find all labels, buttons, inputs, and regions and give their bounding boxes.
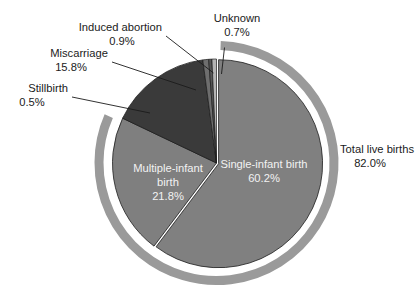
label-miscarriage-name: Miscarriage	[50, 47, 108, 59]
label-multiple-infant-birth-name-line1: Multiple-infant	[133, 162, 204, 174]
label-single-infant-birth-name: Single-infant birth	[220, 158, 307, 170]
label-single-infant-birth-value: 60.2%	[248, 172, 280, 184]
label-multiple-infant-birth-value: 21.8%	[152, 190, 184, 202]
label-unknown-value: 0.7%	[224, 26, 250, 38]
label-multiple-infant-birth-name-line2: birth	[157, 176, 179, 188]
label-stillbirth-name: Stillbirth	[28, 82, 68, 94]
label-induced-abortion-name: Induced abortion	[79, 21, 162, 33]
label-unknown-name: Unknown	[214, 12, 261, 24]
pie-chart-figure: Unknown 0.7% Induced abortion 0.9% Misca…	[0, 0, 417, 297]
label-stillbirth-value: 0.5%	[19, 96, 45, 108]
label-total-live-births-name: Total live births	[340, 143, 414, 155]
label-miscarriage-value: 15.8%	[55, 61, 87, 73]
label-total-live-births-value: 82.0%	[354, 157, 386, 169]
pie-chart-svg: Unknown 0.7% Induced abortion 0.9% Misca…	[0, 0, 417, 297]
label-induced-abortion-value: 0.9%	[109, 35, 135, 47]
